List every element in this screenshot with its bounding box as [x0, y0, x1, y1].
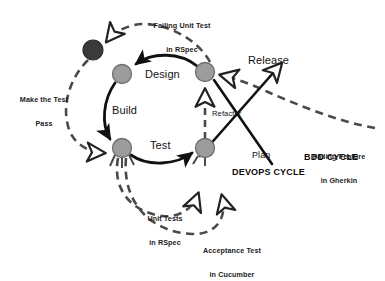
label-test: Test — [150, 139, 171, 151]
annotation-failing-unit-test: Failing Unit Test in RSpec — [136, 6, 228, 71]
annotation-failing-feature-gherkin: Failing Feature in Gherkin — [298, 137, 380, 202]
annotation-line-1: Make the Test — [8, 96, 80, 104]
failing-feature-gherkin-arc — [221, 75, 375, 128]
label-build: Build — [112, 104, 137, 116]
build-node — [113, 139, 132, 158]
test-node — [196, 139, 215, 158]
label-devops-cycle: DEVOPS CYCLE — [232, 167, 305, 177]
label-design: Design — [145, 68, 180, 80]
annotation-line-2: in RSpec — [136, 46, 228, 54]
label-refactor: Refactor — [212, 110, 242, 119]
annotation-make-the-test-pass: Make the Test Pass — [8, 80, 80, 145]
label-release: Release — [248, 54, 289, 66]
label-bdd-cycle: BDD CYCLE — [304, 152, 358, 162]
annotation-acceptance-test-cucumber: Acceptance Test in Cucumber — [186, 231, 278, 281]
annotation-line-2: in Cucumber — [186, 271, 278, 279]
start-node — [83, 40, 103, 60]
design-node — [113, 65, 132, 84]
label-plan: Plan — [252, 150, 270, 160]
annotation-line-1: Acceptance Test — [186, 247, 278, 255]
annotation-line-2: Pass — [8, 120, 80, 128]
annotation-line-1: Unit Tests — [134, 215, 196, 223]
annotation-line-1: Failing Unit Test — [136, 22, 228, 30]
annotation-line-2: in Gherkin — [298, 177, 380, 185]
build-to-test-arc — [131, 153, 192, 163]
